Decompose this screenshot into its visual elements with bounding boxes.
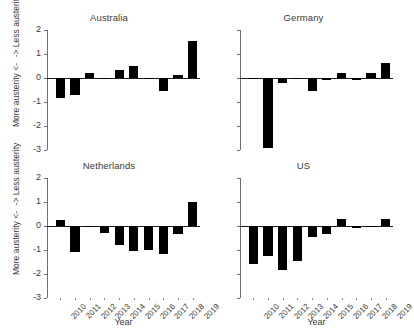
y-axis-spine [47,178,48,298]
x-axis-tick [104,298,105,300]
x-axis-tick [268,298,269,300]
bar-2018 [366,73,375,78]
bar-2015 [129,226,138,251]
bar-2012 [85,73,94,78]
y-axis-tick-label: -2 [21,269,41,278]
x-axis-tick [163,298,164,300]
bar-2010 [249,226,258,264]
x-axis-tick [134,298,135,300]
x-axis-title-us: Year [240,317,393,327]
x-axis-tick [119,298,120,300]
y-axis-tick-label: 2 [21,25,41,34]
panel-us: US 2010201120122013201420152016201720182… [203,160,403,331]
y-axis-tick [237,54,240,55]
bar-2016 [337,219,346,226]
y-axis-spine [240,178,241,298]
bar-2019 [188,41,197,78]
y-axis-tick-label: 2 [21,173,41,182]
y-axis-tick [44,274,47,275]
bar-2012 [278,226,287,270]
bar-2015 [322,78,331,80]
bar-2014 [308,78,317,91]
x-axis-tick-label-2019: 2019 [395,302,414,321]
x-axis-tick [342,298,343,300]
panel-germany: Germany [203,12,403,160]
y-axis-tick-label: -1 [21,245,41,254]
bar-2010 [56,220,65,226]
bar-2010 [56,78,65,98]
bar-2013 [100,226,109,233]
y-axis-label-lower-netherlands: More austerity <- [11,183,21,303]
y-axis-tick [237,298,240,299]
bar-2018 [173,226,182,234]
bar-2013 [293,226,302,261]
panel-title-us: US [211,160,396,171]
y-axis-tick [44,250,47,251]
bar-2014 [115,70,124,78]
y-axis-tick [237,150,240,151]
bar-2017 [159,78,168,91]
bar-2017 [352,78,361,80]
y-axis-tick [237,102,240,103]
bar-2014 [115,226,124,245]
bar-2012 [278,78,287,83]
bar-2014 [308,226,317,237]
panel-title-germany: Germany [211,12,396,23]
bar-2017 [352,226,361,228]
y-axis-tick [44,30,47,31]
bar-2011 [70,226,79,252]
panel-title-australia: Australia [18,12,200,23]
panel-title-netherlands: Netherlands [18,160,200,171]
y-axis-tick-label: -3 [21,293,41,302]
y-axis-tick [44,102,47,103]
y-axis-tick-label: 1 [21,49,41,58]
bar-2019 [381,219,390,226]
x-axis-tick [75,298,76,300]
x-axis-title-netherlands: Year [47,317,200,327]
plot-area-netherlands: 210-1-2-32010201120122013201420152016201… [47,178,200,298]
x-axis-tick [149,298,150,300]
panel-australia: Australia -> Less austerity More austeri… [0,12,200,160]
y-axis-tick [44,202,47,203]
x-axis-tick [356,298,357,300]
bar-2016 [144,78,153,79]
bar-2015 [129,66,138,78]
bar-2016 [144,226,153,250]
bar-2016 [337,73,346,78]
x-axis-tick [386,298,387,300]
y-axis-tick-label: 0 [21,73,41,82]
y-axis-tick-label: 1 [21,197,41,206]
panel-netherlands: Netherlands -> Less austerity More auste… [0,160,200,331]
y-axis-tick [237,126,240,127]
y-axis-tick-label: -3 [21,145,41,154]
bar-2011 [263,226,272,256]
x-axis-tick [283,298,284,300]
bar-2010 [249,78,258,79]
y-axis-tick [237,274,240,275]
y-axis-tick [44,150,47,151]
x-axis-tick [253,298,254,300]
plot-area-germany [240,30,393,150]
y-axis-tick [44,298,47,299]
bar-2017 [159,226,168,254]
y-axis-tick-label: 0 [21,221,41,230]
bar-2019 [381,63,390,78]
bar-2012 [85,226,94,227]
x-axis-tick [312,298,313,300]
x-axis-tick [60,298,61,300]
y-axis-tick-label: -2 [21,121,41,130]
bar-2013 [100,78,109,79]
y-axis-tick [237,30,240,31]
y-axis-tick [44,178,47,179]
bar-2015 [322,226,331,234]
bar-2018 [366,226,375,227]
y-axis-tick [237,250,240,251]
bar-2011 [70,78,79,95]
x-axis-tick [327,298,328,300]
x-axis-tick [297,298,298,300]
y-axis-tick [44,126,47,127]
y-axis-tick [237,202,240,203]
plot-area-us: 2010201120122013201420152016201720182019 [240,178,393,298]
y-axis-spine [240,30,241,150]
